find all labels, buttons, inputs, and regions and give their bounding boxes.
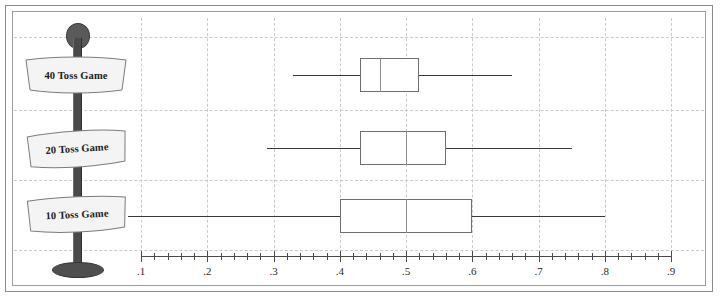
gridline-vertical [141,18,142,253]
tick-minor [552,253,553,260]
whisker-high [472,216,605,217]
tick-minor [499,253,500,260]
tick-major [539,251,540,262]
tick-label: .3 [262,265,286,277]
tick-minor [658,253,659,260]
gridline-vertical [472,18,473,253]
signpost-label-text: 40 Toss Game [24,54,128,96]
tick-major [605,251,606,262]
tick-minor [631,253,632,260]
tick-minor [221,253,222,260]
gridline-horizontal [14,180,704,181]
tick-minor [525,253,526,260]
tick-minor [260,253,261,260]
gridline-vertical [274,18,275,253]
signpost-label-40-toss-game: 40 Toss Game [24,54,128,96]
whisker-low [267,148,360,149]
whisker-high [419,75,512,76]
tick-minor [393,253,394,260]
tick-major [274,251,275,262]
chart-figure: 40 Toss Game 20 Toss Game 10 Toss Game .… [0,0,720,299]
tick-label: .4 [328,265,352,277]
tick-minor [433,253,434,260]
tick-minor [459,253,460,260]
tick-minor [512,253,513,260]
median-line [380,58,381,92]
tick-minor [592,253,593,260]
tick-minor [380,253,381,260]
gridline-horizontal [14,37,704,38]
tick-minor [300,253,301,260]
whisker-low [128,216,340,217]
tick-minor [313,253,314,260]
tick-minor [486,253,487,260]
signpost-label-text: 10 Toss Game [24,191,130,237]
tick-minor [618,253,619,260]
tick-minor [181,253,182,260]
tick-minor [645,253,646,260]
tick-minor [578,253,579,260]
median-line [406,131,407,165]
tick-label: .7 [527,265,551,277]
signpost-label-20-toss-game: 20 Toss Game [24,124,130,172]
tick-minor [419,253,420,260]
box-iqr [360,131,446,165]
tick-major [141,251,142,262]
tick-label: .6 [460,265,484,277]
signpost-label-10-toss-game: 10 Toss Game [24,191,130,237]
box-iqr [360,58,420,92]
signpost-label-text: 20 Toss Game [24,124,130,172]
gridline-horizontal [14,250,704,251]
tick-minor [287,253,288,260]
tick-minor [168,253,169,260]
gridline-vertical [539,18,540,253]
whisker-low [293,75,359,76]
plot-area: 40 Toss Game 20 Toss Game 10 Toss Game .… [0,0,720,299]
tick-major [340,251,341,262]
tick-minor [353,253,354,260]
tick-minor [247,253,248,260]
tick-major [406,251,407,262]
tick-label: .2 [195,265,219,277]
whisker-high [446,148,572,149]
median-line [406,199,407,233]
signpost-base [52,262,104,278]
gridline-vertical [605,18,606,253]
gridline-vertical [207,18,208,253]
tick-label: .9 [659,265,683,277]
tick-minor [154,253,155,260]
tick-label: .8 [593,265,617,277]
tick-minor [327,253,328,260]
tick-minor [565,253,566,260]
tick-minor [234,253,235,260]
tick-label: .5 [394,265,418,277]
tick-minor [366,253,367,260]
gridline-horizontal [14,110,704,111]
gridline-vertical [671,18,672,253]
tick-major [472,251,473,262]
tick-minor [194,253,195,260]
tick-major [671,251,672,262]
tick-minor [446,253,447,260]
tick-label: .1 [129,265,153,277]
tick-major [207,251,208,262]
